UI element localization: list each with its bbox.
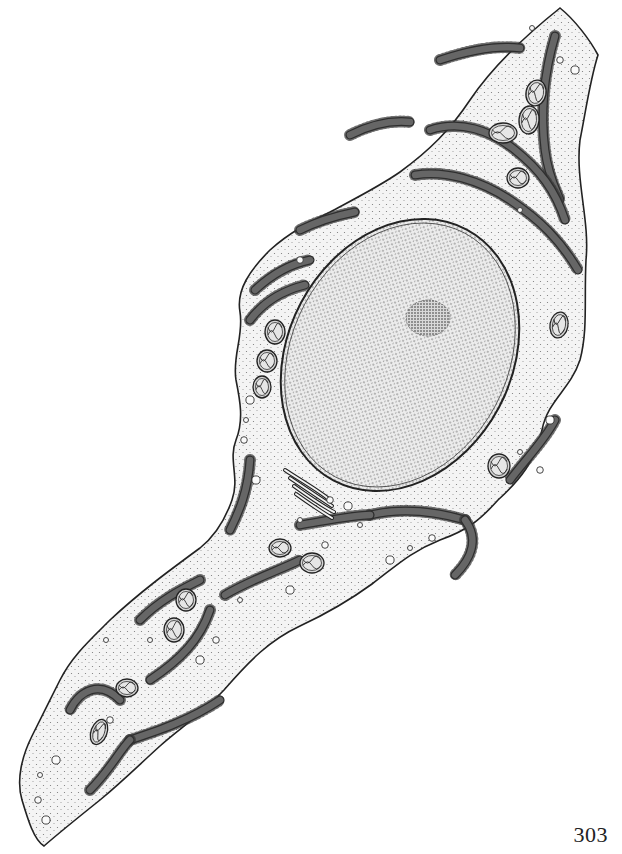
mitochondrion: [488, 454, 510, 478]
vesicle: [518, 208, 523, 213]
vesicle: [42, 816, 50, 824]
vesicle: [286, 586, 294, 594]
mitochondrion: [489, 123, 517, 143]
mitochondrion: [265, 320, 285, 344]
vesicle: [571, 66, 579, 74]
vesicle: [244, 418, 249, 423]
vesicle: [358, 523, 363, 528]
vesicle: [241, 437, 248, 444]
mitochondrion: [269, 539, 291, 557]
vesicle: [557, 57, 564, 64]
vesicle: [429, 535, 436, 542]
vesicle: [386, 556, 394, 564]
illustration-page: 303: [0, 0, 622, 854]
vesicle: [327, 497, 334, 504]
vesicle: [35, 797, 42, 804]
mitochondrion: [176, 589, 196, 611]
vesicle: [38, 773, 43, 778]
vesicle: [408, 546, 413, 551]
cell-illustration: [0, 0, 622, 854]
vesicle: [104, 638, 109, 643]
mitochondrion: [116, 679, 138, 697]
vesicle: [213, 637, 220, 644]
mitochondrion: [300, 553, 324, 573]
vesicle: [252, 476, 260, 484]
vesicle: [546, 416, 554, 424]
ribosomes: [350, 122, 410, 135]
vesicle: [246, 396, 254, 404]
page-number: 303: [574, 822, 609, 848]
vesicle: [518, 450, 523, 455]
vesicle: [344, 502, 352, 510]
vesicle: [530, 26, 535, 31]
mitochondrion: [257, 350, 277, 372]
nucleolus: [406, 300, 450, 336]
mitochondrion: [507, 168, 529, 188]
mitochondrion: [164, 618, 184, 642]
vesicle: [196, 656, 204, 664]
vesicle: [148, 638, 153, 643]
vesicle: [322, 542, 329, 549]
vesicle: [107, 717, 114, 724]
vesicle: [537, 467, 544, 474]
vesicle: [298, 518, 303, 523]
vesicle: [238, 598, 243, 603]
vesicle: [52, 756, 60, 764]
mitochondrion: [253, 376, 271, 398]
vesicle: [297, 257, 304, 264]
